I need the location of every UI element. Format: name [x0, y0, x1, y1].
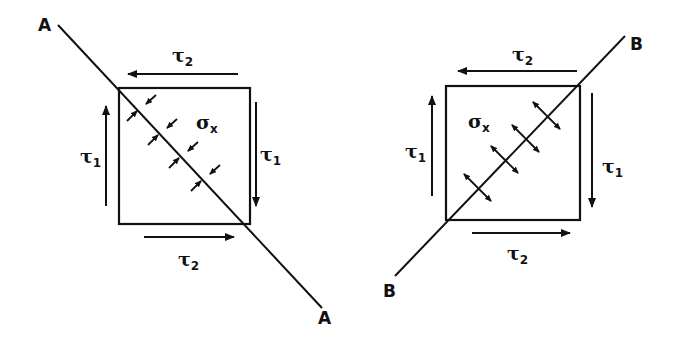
- right-element-diagram: [395, 36, 625, 276]
- left-compressive-arrows: [127, 95, 220, 191]
- left-label-a-start: A: [38, 17, 51, 34]
- right-sigma-x-label: σx: [468, 112, 490, 134]
- left-tau1-right-label: τ1: [260, 145, 281, 167]
- right-tau1-left-label: τ1: [405, 142, 426, 164]
- right-label-b-end: B: [383, 283, 396, 300]
- left-stress-element-square: [119, 88, 250, 224]
- stress-diagrams-canvas: [0, 0, 683, 341]
- left-tau2-bottom-label: τ2: [178, 250, 199, 272]
- left-tau1-left-label: τ1: [80, 147, 101, 169]
- right-tau2-top-label: τ2: [512, 45, 533, 67]
- left-tau2-top-label: τ2: [172, 46, 193, 68]
- right-tau2-bottom-label: τ2: [507, 244, 528, 266]
- right-label-b-start: B: [630, 36, 643, 53]
- left-sigma-x-label: σx: [196, 113, 218, 135]
- right-tau1-right-label: τ1: [602, 157, 623, 179]
- left-label-a-end: A: [318, 310, 331, 327]
